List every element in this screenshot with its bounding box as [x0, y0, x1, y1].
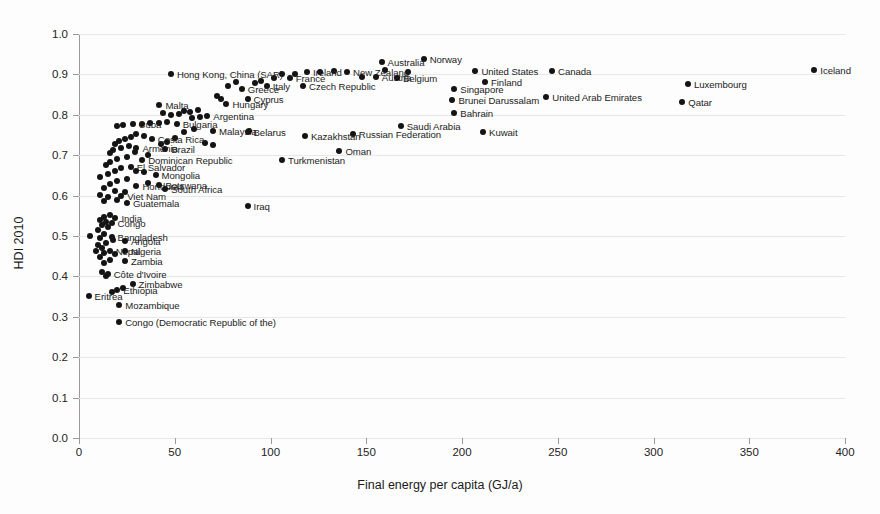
- data-point-label: Kuwait: [489, 127, 518, 138]
- data-point: [97, 174, 103, 180]
- data-point: [133, 131, 139, 137]
- data-point: [210, 142, 216, 148]
- data-point: [126, 143, 132, 149]
- data-point-label: United States: [481, 66, 538, 77]
- y-tick-label: 0.2: [52, 351, 68, 363]
- data-point: [336, 148, 342, 154]
- data-point: [168, 71, 174, 77]
- data-point: [300, 83, 306, 89]
- data-point: [210, 128, 216, 134]
- data-point-label: Singapore: [460, 83, 503, 94]
- data-point: [128, 164, 134, 170]
- data-point: [153, 172, 159, 178]
- data-point-label: Congo (Democratic Republic of the): [125, 316, 276, 327]
- data-point: [124, 176, 130, 182]
- data-point-label: Iraq: [254, 201, 270, 212]
- data-point: [122, 136, 128, 142]
- data-point: [156, 102, 162, 108]
- data-point: [233, 79, 239, 85]
- data-point: [679, 99, 685, 105]
- data-point: [164, 119, 170, 125]
- x-tick-label: 0: [76, 446, 82, 458]
- y-tick-label: 0.8: [52, 109, 68, 121]
- data-point: [122, 238, 128, 244]
- x-tick-label: 50: [168, 446, 181, 458]
- data-point: [141, 133, 147, 139]
- data-point: [811, 67, 817, 73]
- data-point: [480, 129, 486, 135]
- data-point: [97, 192, 103, 198]
- x-tick-mark: [79, 438, 80, 444]
- data-point: [105, 271, 111, 277]
- x-tick-label: 100: [261, 446, 280, 458]
- y-tick-mark: [73, 276, 79, 277]
- data-point: [225, 83, 231, 89]
- gridline-y: [79, 357, 845, 358]
- data-point: [116, 319, 122, 325]
- data-point: [124, 154, 130, 160]
- data-point: [195, 107, 201, 113]
- x-tick-mark: [654, 438, 655, 444]
- data-point: [176, 111, 182, 117]
- data-point: [114, 123, 120, 129]
- data-point: [379, 59, 385, 65]
- data-point-label: Russian Federation: [359, 128, 441, 139]
- data-point: [101, 185, 107, 191]
- data-point: [101, 260, 107, 266]
- data-point: [279, 157, 285, 163]
- x-tick-label: 350: [740, 446, 759, 458]
- data-point: [130, 121, 136, 127]
- data-point: [97, 235, 103, 241]
- data-point: [87, 233, 93, 239]
- data-point: [124, 200, 130, 206]
- data-point: [103, 162, 109, 168]
- data-point-label: Norway: [430, 54, 462, 65]
- data-point: [472, 68, 478, 74]
- x-tick-mark: [558, 438, 559, 444]
- data-point-label: Hong Kong, China (SAR): [177, 68, 283, 79]
- data-point: [97, 254, 103, 260]
- data-point: [302, 133, 308, 139]
- data-point: [107, 150, 113, 156]
- y-tick-label: 0.5: [52, 230, 68, 242]
- y-tick-label: 0.3: [52, 311, 68, 323]
- data-point: [107, 248, 113, 254]
- x-tick-label: 250: [548, 446, 567, 458]
- data-point-label: Brunei Darussalam: [458, 94, 539, 105]
- data-point-label: Hungary: [232, 98, 268, 109]
- data-point-label: Cuba: [139, 119, 162, 130]
- x-tick-mark: [271, 438, 272, 444]
- data-point: [174, 121, 180, 127]
- data-point-label: Eritrea: [95, 290, 123, 301]
- data-point: [160, 110, 166, 116]
- data-point: [107, 257, 113, 263]
- x-tick-mark: [175, 438, 176, 444]
- data-point: [118, 145, 124, 151]
- chart-figure: HDI 2010 0.00.10.20.30.40.50.60.70.80.91…: [0, 0, 880, 514]
- data-point: [114, 178, 120, 184]
- y-tick-label: 0.1: [52, 392, 68, 404]
- plot-area: IcelandNorwayCanadaUnited StatesFinlandS…: [79, 34, 845, 438]
- y-tick-label: 0.7: [52, 149, 68, 161]
- y-tick-mark: [73, 398, 79, 399]
- data-point-label: Czech Republic: [309, 80, 376, 91]
- data-point: [107, 181, 113, 187]
- data-point-label: Oman: [345, 146, 371, 157]
- gridline-y: [79, 236, 845, 237]
- y-tick-label: 0.0: [52, 432, 68, 444]
- gridline-y: [79, 398, 845, 399]
- data-point-label: Qatar: [688, 96, 712, 107]
- data-point-label: Belarus: [254, 126, 286, 137]
- gridline-y: [79, 34, 845, 35]
- y-tick-mark: [73, 34, 79, 35]
- data-point-label: Turkmenistan: [288, 155, 345, 166]
- data-point-label: Armenia: [142, 143, 177, 154]
- data-point-label: Luxembourg: [694, 79, 747, 90]
- y-tick-label-group: 0.00.10.20.30.40.50.60.70.80.91.0: [0, 0, 68, 514]
- data-point-label: Kazakhstan: [311, 130, 361, 141]
- data-point: [168, 112, 174, 118]
- data-point-label: Malaysia: [219, 125, 256, 136]
- y-tick-mark: [73, 196, 79, 197]
- x-tick-label: 400: [835, 446, 854, 458]
- data-point: [133, 183, 139, 189]
